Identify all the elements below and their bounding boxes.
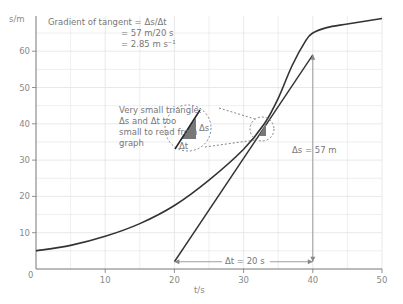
triangle-note-4: graph [119, 138, 144, 148]
tick-labels: 1020304050601020304050 [19, 46, 387, 285]
grid [36, 16, 382, 269]
delta-t-small-label: Δt [179, 141, 189, 151]
triangle-note-1: Very small triangle: [119, 105, 202, 115]
y-axis-label: s/m [9, 14, 25, 24]
y-tick-label: 30 [19, 155, 30, 165]
x-tick-label: 50 [377, 275, 388, 285]
gradient-line-2: = 57 m/20 s [121, 28, 174, 38]
triangle-note-3: small to read from [119, 127, 197, 137]
y-tick-label: 50 [19, 83, 30, 93]
delta-s-small-label: Δs [199, 123, 210, 133]
origin-label: 0 [28, 270, 33, 280]
displacement-time-chart: 1020304050601020304050 Δs Δt Gradient of… [0, 0, 403, 304]
x-tick-label: 10 [100, 275, 111, 285]
delta-s-big-label: Δs = 57 m [292, 145, 337, 155]
x-tick-label: 40 [307, 275, 318, 285]
triangle-note-2: Δs and Δt too [119, 116, 176, 126]
delta-s-arrow [310, 55, 315, 262]
gradient-line-1: Gradient of tangent = Δs/Δt [48, 17, 167, 27]
y-tick-label: 40 [19, 119, 30, 129]
y-tick-label: 10 [19, 228, 30, 238]
y-tick-label: 60 [19, 46, 30, 56]
gradient-line-3: = 2.85 m s⁻¹ [121, 39, 176, 49]
x-axis-label: t/s [194, 285, 205, 295]
delta-t-big-label: Δt = 20 s [225, 256, 265, 266]
x-tick-label: 30 [238, 275, 249, 285]
x-tick-label: 20 [169, 275, 180, 285]
y-tick-label: 20 [19, 191, 30, 201]
